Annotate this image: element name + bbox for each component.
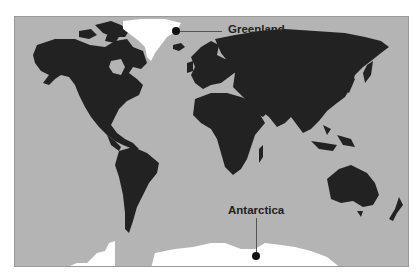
greenland-marker-dot [172, 27, 180, 35]
antarctica-marker-dot [252, 252, 260, 260]
greenland-leader-line [180, 31, 222, 32]
south-america [115, 147, 159, 233]
antarctica-label: Antarctica [228, 204, 284, 216]
north-america [33, 39, 147, 149]
arctic-islands [79, 21, 129, 43]
antarctica [65, 241, 341, 267]
world-map [14, 16, 409, 267]
world-map-graphic [15, 17, 409, 267]
greenland-label: Greenland [228, 23, 285, 35]
antarctica-leader-line [256, 218, 257, 254]
australia [327, 165, 379, 207]
